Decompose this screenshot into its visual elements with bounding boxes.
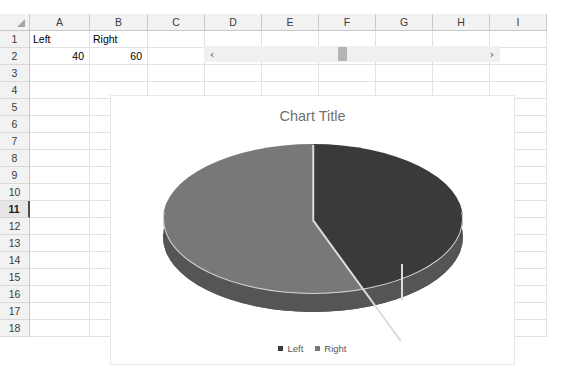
cell-c3[interactable] [148,65,205,82]
cell-d3[interactable] [205,65,262,82]
column-header-a[interactable]: A [30,14,90,31]
row-header-8[interactable]: 8 [0,150,30,167]
row-header-3[interactable]: 3 [0,65,30,82]
row-header-5[interactable]: 5 [0,99,30,116]
cell-a11[interactable] [30,201,90,218]
legend-swatch-icon [315,346,320,351]
cell-a17[interactable] [30,303,90,320]
cell-b1[interactable]: Right [90,31,148,48]
row-header-4[interactable]: 4 [0,82,30,99]
cell-c2[interactable] [148,48,205,65]
cell-g3[interactable] [376,65,433,82]
cell-a12[interactable] [30,218,90,235]
column-header-b[interactable]: B [90,14,148,31]
row-header-1[interactable]: 1 [0,31,30,48]
row-header-18[interactable]: 18 [0,320,30,337]
row-header-15[interactable]: 15 [0,269,30,286]
cell-c1[interactable] [148,31,205,48]
pie-wall-edge [401,264,403,300]
legend-label: Left [287,343,303,354]
row-header-13[interactable]: 13 [0,235,30,252]
column-header-h[interactable]: H [433,14,490,31]
scrollbar-track[interactable] [220,46,484,62]
cell-a2[interactable]: 40 [30,48,90,65]
spreadsheet-grid[interactable]: ABCDEFGHI 123456789101112131415161718 Le… [0,0,561,381]
cell-a1[interactable]: Left [30,31,90,48]
column-header-g[interactable]: G [376,14,433,31]
cell-a8[interactable] [30,150,90,167]
cell-a15[interactable] [30,269,90,286]
chart-title[interactable]: Chart Title [111,108,514,124]
legend-label: Right [324,343,346,354]
cell-f3[interactable] [319,65,376,82]
cell-a18[interactable] [30,320,90,337]
row-header-12[interactable]: 12 [0,218,30,235]
row-header-14[interactable]: 14 [0,252,30,269]
row-header-2[interactable]: 2 [0,48,30,65]
cell-a10[interactable] [30,184,90,201]
legend-item-left[interactable]: Left [278,343,303,354]
select-all-triangle-icon [17,19,25,27]
cell-a5[interactable] [30,99,90,116]
legend-swatch-icon [278,346,283,351]
row-header-6[interactable]: 6 [0,116,30,133]
scrollbar-thumb[interactable] [338,47,347,61]
cell-a16[interactable] [30,286,90,303]
row-header-16[interactable]: 16 [0,286,30,303]
column-header-f[interactable]: F [319,14,376,31]
row-header-10[interactable]: 10 [0,184,30,201]
pie-slice-separator-start [312,144,314,219]
cell-a14[interactable] [30,252,90,269]
column-header-c[interactable]: C [148,14,205,31]
pie-chart-3d[interactable] [163,144,463,329]
chart-legend[interactable]: LeftRight [111,343,514,354]
row-header-11[interactable]: 11 [0,201,30,218]
column-header-e[interactable]: E [262,14,319,31]
cell-a6[interactable] [30,116,90,133]
select-all-corner[interactable] [0,14,30,31]
cell-a4[interactable] [30,82,90,99]
row-header-17[interactable]: 17 [0,303,30,320]
horizontal-scrollbar[interactable]: ‹ › [204,46,500,62]
cell-a13[interactable] [30,235,90,252]
cell-i3[interactable] [490,65,547,82]
row-header-9[interactable]: 9 [0,167,30,184]
chart-object[interactable]: Chart Title LeftRight [110,95,515,365]
cell-a9[interactable] [30,167,90,184]
column-header-d[interactable]: D [205,14,262,31]
cell-a7[interactable] [30,133,90,150]
row-header-7[interactable]: 7 [0,133,30,150]
scroll-right-arrow-icon[interactable]: › [484,46,500,62]
scroll-left-arrow-icon[interactable]: ‹ [204,46,220,62]
cell-a3[interactable] [30,65,90,82]
column-header-i[interactable]: I [490,14,547,31]
cell-h3[interactable] [433,65,490,82]
cell-e3[interactable] [262,65,319,82]
cell-b2[interactable]: 60 [90,48,148,65]
cell-b3[interactable] [90,65,148,82]
legend-item-right[interactable]: Right [315,343,346,354]
